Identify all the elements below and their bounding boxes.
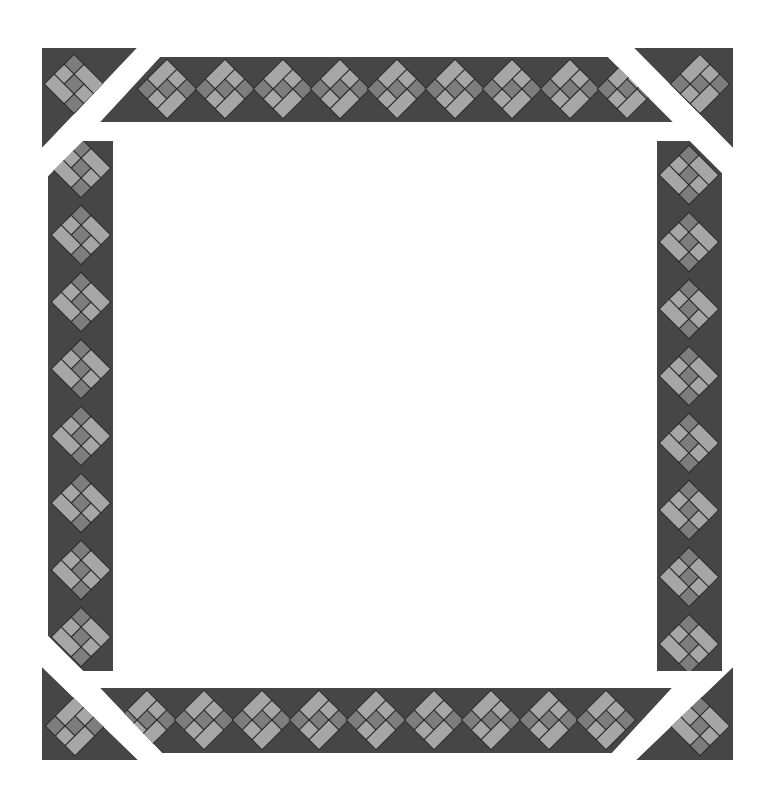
left-strip — [48, 138, 113, 671]
corner-bottom-left — [42, 667, 138, 760]
bottom-strip — [100, 688, 672, 753]
right-strip — [657, 141, 722, 674]
corner-bottom-right — [636, 667, 733, 760]
quilt-border-diagram — [0, 0, 777, 809]
top-strip — [100, 57, 673, 122]
